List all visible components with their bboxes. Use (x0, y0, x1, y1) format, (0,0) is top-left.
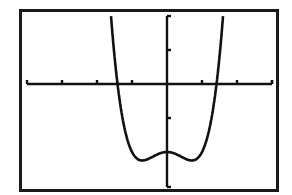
calculator-graph-screen (0, 0, 292, 195)
screen-frame (21, 11, 278, 191)
